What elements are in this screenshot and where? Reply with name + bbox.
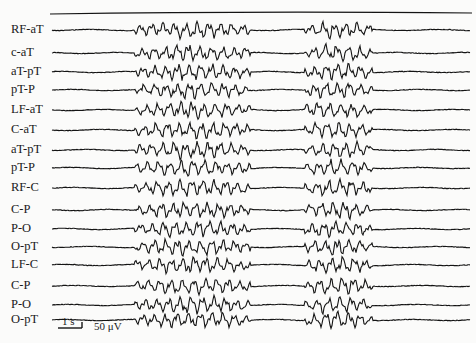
amplitude-scale-label: 50 μV [94,320,122,332]
time-scale-label: 1 s [62,315,75,327]
scale-bar-lines [0,0,476,343]
eeg-figure: RF-aTc-aTaT-pTpT-PLF-aTC-aTaT-pTpT-PRF-C… [0,0,476,343]
